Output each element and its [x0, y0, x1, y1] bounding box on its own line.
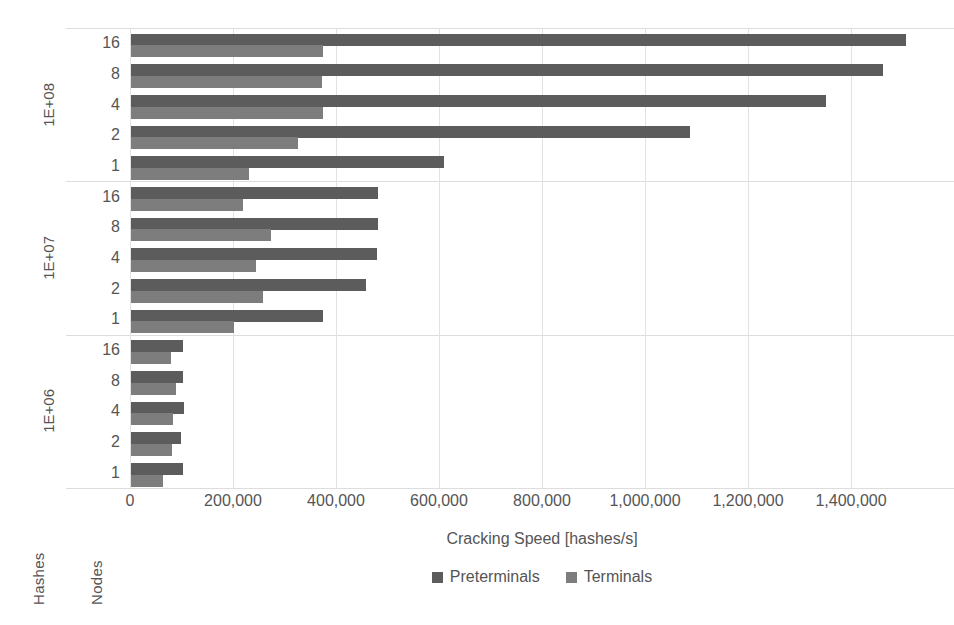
- legend-swatch-icon: [432, 572, 443, 583]
- gridline-7: [851, 28, 852, 488]
- group-label-text: 1E+07: [40, 236, 57, 280]
- legend-label: Preterminals: [450, 568, 540, 586]
- node-tick-1E+08-16: 16: [72, 34, 120, 52]
- x-tick-label-4: 800,000: [513, 492, 571, 510]
- bar-terminals-1E+07-1: [131, 321, 234, 333]
- bar-terminals-1E+07-4: [131, 260, 256, 272]
- node-tick-1E+08-2: 2: [72, 126, 120, 144]
- bar-preterminals-1E+06-16: [131, 340, 183, 352]
- bar-preterminals-1E+08-4: [131, 95, 826, 107]
- group-label-text: 1E+06: [40, 389, 57, 433]
- x-tick-label-3: 600,000: [410, 492, 468, 510]
- node-tick-1E+08-1: 1: [72, 157, 120, 175]
- node-tick-1E+07-16: 16: [72, 188, 120, 206]
- bar-preterminals-1E+08-16: [131, 34, 906, 46]
- bar-preterminals-1E+07-4: [131, 248, 377, 260]
- bar-preterminals-1E+07-1: [131, 310, 323, 322]
- node-tick-1E+06-16: 16: [72, 341, 120, 359]
- hashes-axis-label: Hashes: [30, 505, 47, 605]
- bar-terminals-1E+08-8: [131, 76, 322, 88]
- x-tick-label-0: 0: [126, 492, 135, 510]
- node-tick-1E+07-8: 8: [72, 218, 120, 236]
- x-tick-label-2: 400,000: [307, 492, 365, 510]
- bar-preterminals-1E+08-2: [131, 126, 690, 138]
- cracking-speed-bar-chart: Hashes Nodes 1E+081E+071E+06 16842116842…: [0, 0, 954, 625]
- bar-terminals-1E+08-4: [131, 107, 323, 119]
- bar-preterminals-1E+07-16: [131, 187, 378, 199]
- bar-terminals-1E+08-16: [131, 45, 323, 57]
- bar-terminals-1E+07-2: [131, 291, 263, 303]
- group-label-1E+06: 1E+06: [30, 335, 66, 488]
- bar-terminals-1E+06-2: [131, 444, 172, 456]
- legend-label: Terminals: [584, 568, 652, 586]
- x-tick-label-1: 200,000: [204, 492, 262, 510]
- x-tick-label-6: 1,200,000: [712, 492, 783, 510]
- plot-area: [130, 28, 954, 488]
- node-tick-1E+06-1: 1: [72, 464, 120, 482]
- legend-item-terminals[interactable]: Terminals: [566, 568, 652, 586]
- node-tick-1E+07-2: 2: [72, 280, 120, 298]
- legend-item-preterminals[interactable]: Preterminals: [432, 568, 540, 586]
- bar-preterminals-1E+06-1: [131, 463, 183, 475]
- x-tick-label-5: 1,000,000: [609, 492, 680, 510]
- node-tick-1E+07-1: 1: [72, 310, 120, 328]
- bar-preterminals-1E+06-8: [131, 371, 183, 383]
- group-label-text: 1E+08: [40, 83, 57, 127]
- node-tick-1E+08-8: 8: [72, 65, 120, 83]
- bar-terminals-1E+07-8: [131, 229, 271, 241]
- bar-preterminals-1E+08-1: [131, 156, 444, 168]
- node-tick-1E+08-4: 4: [72, 96, 120, 114]
- bar-terminals-1E+08-2: [131, 137, 298, 149]
- bar-preterminals-1E+07-8: [131, 218, 378, 230]
- bar-preterminals-1E+08-8: [131, 64, 883, 76]
- legend-swatch-icon: [566, 572, 577, 583]
- group-label-1E+08: 1E+08: [30, 28, 66, 181]
- node-tick-1E+06-4: 4: [72, 402, 120, 420]
- bar-preterminals-1E+06-4: [131, 402, 184, 414]
- x-tick-label-7: 1,400,000: [815, 492, 886, 510]
- node-tick-1E+06-8: 8: [72, 372, 120, 390]
- node-tick-1E+07-4: 4: [72, 249, 120, 267]
- x-axis-title: Cracking Speed [hashes/s]: [130, 530, 954, 548]
- bar-terminals-1E+06-4: [131, 413, 173, 425]
- bar-preterminals-1E+07-2: [131, 279, 366, 291]
- node-tick-1E+06-2: 2: [72, 433, 120, 451]
- chart-legend: PreterminalsTerminals: [130, 568, 954, 586]
- group-label-1E+07: 1E+07: [30, 181, 66, 334]
- bar-terminals-1E+07-16: [131, 199, 243, 211]
- bar-preterminals-1E+06-2: [131, 432, 181, 444]
- bar-terminals-1E+06-8: [131, 383, 176, 395]
- nodes-axis-label: Nodes: [88, 505, 105, 605]
- bar-terminals-1E+08-1: [131, 168, 249, 180]
- group-separator-3: [66, 488, 954, 489]
- bar-terminals-1E+06-16: [131, 352, 171, 364]
- bar-terminals-1E+06-1: [131, 475, 163, 487]
